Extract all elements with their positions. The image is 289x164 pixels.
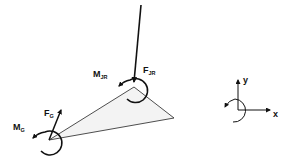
label-m-g: MG	[13, 122, 25, 133]
label-f-jr: FJR	[143, 65, 156, 76]
free-body-diagram: MJR FJR FG MG y x	[0, 0, 289, 164]
axis-x-label: x	[273, 109, 278, 119]
coordinate-frame: y x	[225, 75, 278, 122]
label-m-jr: MJR	[93, 69, 108, 80]
label-f-g: FG	[44, 108, 54, 119]
axis-y-label: y	[243, 75, 248, 85]
body-segment	[49, 87, 174, 140]
moment-g-arc	[33, 131, 62, 155]
rotation-arc	[225, 99, 246, 122]
force-jr-arrow	[134, 5, 141, 82]
